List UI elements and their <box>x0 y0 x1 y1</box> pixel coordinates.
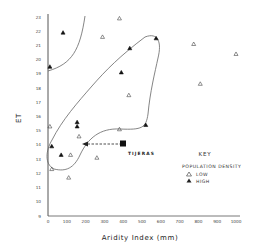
y-axis-title: ET <box>15 113 23 123</box>
legend-low-triangle-icon <box>187 172 192 176</box>
low-density-triangle-icon <box>67 176 71 180</box>
low-density-triangle-icon <box>127 93 131 97</box>
low-density-triangle-icon <box>95 156 99 160</box>
y-tick-label: 14 <box>36 142 42 147</box>
high-density-triangle-icon <box>50 144 54 148</box>
y-tick-label: 15 <box>36 128 42 133</box>
legend: KEY POPULATION DENSITY LOW HIGH <box>182 151 241 184</box>
low-density-triangle-icon <box>101 35 105 39</box>
legend-high-label: HIGH <box>196 179 210 184</box>
high-density-triangle-icon <box>75 124 79 128</box>
y-tick-label: 9 <box>38 214 41 219</box>
y-tick-label: 22 <box>36 29 42 34</box>
x-tick-label: 300 <box>100 219 108 224</box>
high-density-triangle-icon <box>59 153 63 157</box>
boundary-loop <box>47 36 159 170</box>
legend-low-label: LOW <box>196 172 208 177</box>
x-tick-label: 400 <box>119 219 127 224</box>
y-tick-label: 17 <box>36 100 42 105</box>
y-tick-label: 21 <box>36 43 42 48</box>
x-tick-label: 0 <box>47 219 50 224</box>
low-density-triangle-icon <box>192 42 196 46</box>
x-tick-labels: 01002003004005006007008009001000 <box>47 219 242 224</box>
high-density-triangle-icon <box>75 120 79 124</box>
y-tick-label: 13 <box>36 157 42 162</box>
y-tick-label: 10 <box>36 199 42 204</box>
high-density-triangle-icon <box>119 70 123 74</box>
low-density-triangle-icon <box>69 153 73 157</box>
y-tick-label: 12 <box>36 171 42 176</box>
low-density-triangle-icon <box>198 82 202 86</box>
boundary-curve-upper-left <box>48 16 85 71</box>
y-tick-labels: 91011121314151617181920212223 <box>36 15 42 219</box>
y-tick-label: 23 <box>36 15 42 20</box>
y-tick-label: 20 <box>36 57 42 62</box>
x-tick-label: 900 <box>213 219 221 224</box>
x-tick-label: 200 <box>82 219 90 224</box>
y-tick-label: 11 <box>36 185 42 190</box>
legend-subtitle: POPULATION DENSITY <box>182 164 241 169</box>
y-tick-label: 16 <box>36 114 42 119</box>
low-density-triangle-icon <box>234 52 238 56</box>
x-axis-title: Aridity Index (mm) <box>102 234 179 242</box>
x-tick-label: 600 <box>157 219 165 224</box>
legend-high-triangle-icon <box>187 179 192 183</box>
y-tick-label: 18 <box>36 86 42 91</box>
tijeras-label: TIJERAS <box>128 151 155 156</box>
low-density-triangle-icon <box>77 134 81 138</box>
scatter-chart: 91011121314151617181920212223 0100200300… <box>0 0 259 248</box>
high-density-points <box>48 31 158 157</box>
x-tick-label: 500 <box>138 219 146 224</box>
x-tick-label: 700 <box>176 219 184 224</box>
y-tick-label: 19 <box>36 71 42 76</box>
legend-title: KEY <box>198 151 211 157</box>
x-tick-label: 800 <box>194 219 202 224</box>
x-tick-label: 1000 <box>231 219 242 224</box>
high-density-triangle-icon <box>61 31 65 35</box>
low-density-triangle-icon <box>117 16 121 20</box>
tijeras-marker <box>120 141 126 147</box>
x-tick-label: 100 <box>63 219 71 224</box>
